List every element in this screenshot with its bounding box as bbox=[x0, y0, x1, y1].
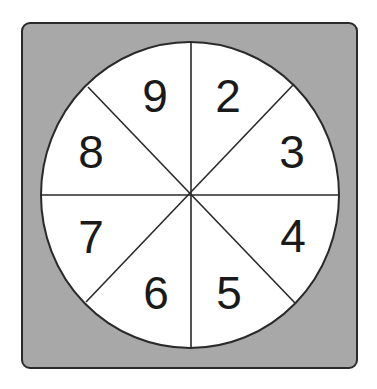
section-label-2: 2 bbox=[215, 70, 241, 122]
section-label-5: 5 bbox=[216, 267, 242, 319]
section-label-9: 9 bbox=[142, 70, 168, 122]
section-label-8: 8 bbox=[78, 126, 104, 178]
section-label-7: 7 bbox=[78, 211, 104, 263]
section-label-6: 6 bbox=[143, 267, 169, 319]
section-label-4: 4 bbox=[280, 210, 306, 262]
spinner-diagram: 2 3 4 5 6 7 8 9 bbox=[0, 0, 377, 389]
section-label-3: 3 bbox=[279, 126, 305, 178]
